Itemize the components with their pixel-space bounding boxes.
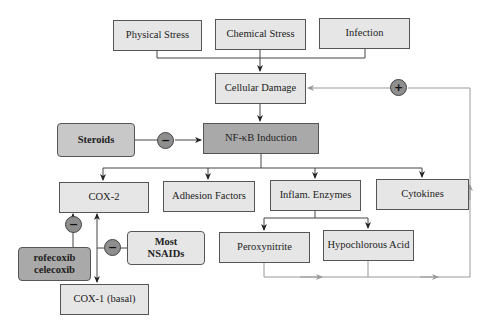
positive-feedback-icon: +	[390, 79, 407, 96]
node-cytokines: Cytokines	[376, 179, 469, 210]
node-nfkb-induction: NF-κB Induction	[203, 123, 319, 154]
node-hypochlorous-acid: Hypochlorous Acid	[323, 230, 414, 261]
node-coxibs: rofecoxib celecoxib	[18, 247, 91, 281]
nsaids-line2: NSAIDs	[148, 248, 185, 260]
node-inflam-enzymes: Inflam. Enzymes	[270, 180, 361, 211]
node-adhesion-factors: Adhesion Factors	[163, 181, 255, 212]
coxib-celecoxib: celecoxib	[34, 264, 75, 276]
node-steroids: Steroids	[57, 123, 135, 157]
node-cox2: COX-2	[59, 182, 149, 213]
nsaids-line1: Most	[155, 236, 178, 248]
node-cellular-damage: Cellular Damage	[215, 73, 306, 104]
node-most-nsaids: Most NSAIDs	[127, 231, 205, 265]
node-chemical-stress: Chemical Stress	[215, 19, 306, 50]
node-physical-stress: Physical Stress	[113, 20, 202, 51]
node-cox1-basal: COX-1 (basal)	[60, 284, 149, 315]
coxib-rofecoxib: rofecoxib	[34, 252, 76, 264]
inhibition-icon-steroids: −	[157, 132, 174, 149]
inhibition-icon-nsaids: −	[104, 239, 121, 256]
node-peroxynitrite: Peroxynitrite	[219, 232, 310, 263]
node-infection: Infection	[319, 18, 410, 49]
inhibition-icon-coxibs: −	[65, 216, 82, 233]
diagram-canvas: Physical Stress Chemical Stress Infectio…	[0, 0, 486, 328]
